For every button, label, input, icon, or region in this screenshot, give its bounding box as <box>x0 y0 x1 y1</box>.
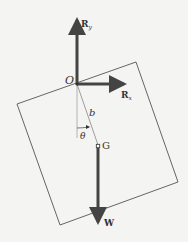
label-distance-b: b <box>89 107 95 118</box>
label-angle-theta: θ <box>80 131 86 141</box>
pivot-point <box>75 82 78 85</box>
label-center-of-mass-g: G <box>102 140 110 151</box>
free-body-diagram: O b θ G Ry Rx W <box>0 0 188 242</box>
label-reaction-y-sub: y <box>87 23 92 31</box>
label-reaction-x-sub: x <box>128 94 132 101</box>
label-weight-w: W <box>103 218 115 228</box>
center-of-mass-marker <box>96 144 99 147</box>
label-pivot-o: O <box>65 74 74 87</box>
label-reaction-x: Rx <box>121 90 132 101</box>
theta-arc-arrowhead <box>86 125 90 129</box>
label-reaction-y: Ry <box>81 19 92 31</box>
